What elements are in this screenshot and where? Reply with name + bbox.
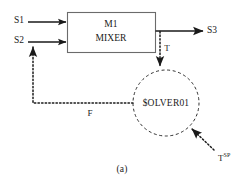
signal-setpoint-label: TSP xyxy=(218,152,230,163)
mixer-type-label: MIXER xyxy=(95,34,126,44)
figure-container: S1 S2 S3 M1 MIXER T F $OLVER01 TSP (a) xyxy=(0,0,248,185)
signal-f-line xyxy=(33,47,133,103)
signal-f-label: F xyxy=(87,109,92,118)
stream-s2-label: S2 xyxy=(14,36,24,46)
stream-s3-label: S3 xyxy=(207,26,217,36)
signal-setpoint-line xyxy=(192,129,214,150)
stream-s1-label: S1 xyxy=(14,16,24,26)
controller-label: $OLVER01 xyxy=(143,99,190,109)
signal-t-label: T xyxy=(164,44,170,53)
setpoint-superscript: SP xyxy=(224,152,231,158)
mixer-name-label: M1 xyxy=(104,20,117,30)
figure-caption: (a) xyxy=(117,165,128,175)
